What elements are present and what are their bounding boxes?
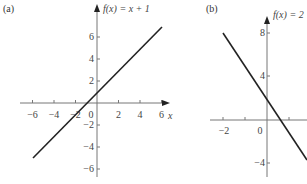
- function-line: [223, 33, 307, 160]
- panel-a: (a) −6 −4 −2 0 2 4 6 x: [3, 3, 173, 177]
- y-tick-labels: 8 4 −4: [254, 27, 265, 168]
- y-tick-label: 4: [89, 53, 94, 64]
- x-axis-label: x: [167, 110, 173, 121]
- panel-b-label: (b): [206, 3, 218, 15]
- y-tick-label: −2: [83, 119, 94, 130]
- x-tick-label: −6: [27, 109, 38, 120]
- panel-b: (b) −2 0 8 4 −4 f(x) = 2: [206, 3, 307, 177]
- y-tick-label: −4: [254, 157, 265, 168]
- y-tick-label: −6: [83, 163, 94, 174]
- y-axis-arrow-icon: [264, 16, 270, 24]
- panel-a-label: (a): [3, 3, 14, 15]
- x-tick-label: −4: [49, 109, 60, 120]
- x-tick-label: 0: [258, 125, 263, 136]
- y-tick-label: −4: [83, 141, 94, 152]
- chart-canvas: (a) −6 −4 −2 0 2 4 6 x: [0, 0, 307, 184]
- function-title: f(x) = 2: [273, 9, 304, 21]
- y-tick-label: 8: [260, 27, 265, 38]
- x-tick-label: 6: [159, 109, 164, 120]
- x-tick-label: −2: [219, 125, 230, 136]
- y-tick-label: 2: [89, 75, 94, 86]
- y-tick-label: 6: [89, 31, 94, 42]
- y-tick-label: 4: [260, 70, 265, 81]
- x-tick-label: 4: [138, 109, 143, 120]
- function-title: f(x) = x + 1: [103, 3, 150, 15]
- x-tick-label: 2: [116, 109, 121, 120]
- x-tick-labels: −6 −4 −2 0 2 4 6: [27, 109, 164, 120]
- x-axis-arrow-icon: [162, 100, 170, 106]
- y-axis-arrow-icon: [94, 4, 100, 12]
- x-tick-labels: −2 0: [219, 125, 263, 136]
